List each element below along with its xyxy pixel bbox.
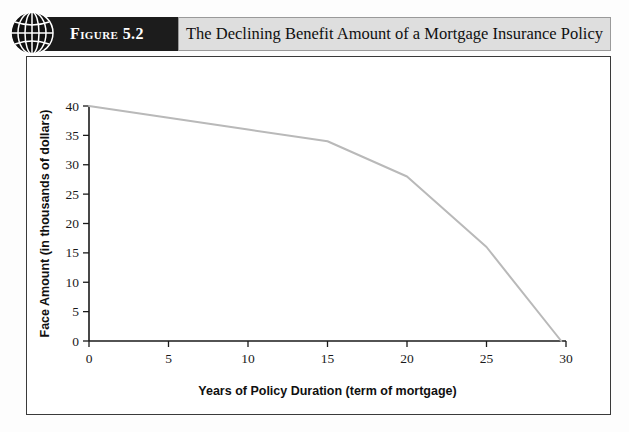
x-tick-label: 10 xyxy=(241,351,255,366)
line-chart: 0510152025303540051015202530Years of Pol… xyxy=(27,57,609,413)
y-tick-label: 0 xyxy=(72,334,79,349)
data-series-line xyxy=(89,106,561,341)
y-tick-label: 20 xyxy=(66,216,80,231)
x-axis-title: Years of Policy Duration (term of mortga… xyxy=(198,384,456,398)
y-tick-label: 30 xyxy=(66,157,80,172)
y-axis-title: Face Amount (in thousands of dollars) xyxy=(38,109,52,337)
y-tick-label: 15 xyxy=(66,245,80,260)
figure-title-tab: The Declining Benefit Amount of a Mortga… xyxy=(178,17,611,51)
page-title: The Declining Benefit Amount of a Mortga… xyxy=(179,18,610,50)
x-tick-label: 25 xyxy=(480,351,494,366)
x-tick-label: 15 xyxy=(321,351,335,366)
y-tick-label: 40 xyxy=(66,99,80,114)
figure-page: Figure 5.2 The Declining Benefit Amount … xyxy=(0,0,629,432)
y-tick-label: 35 xyxy=(66,128,80,143)
y-tick-label: 5 xyxy=(72,304,79,319)
figure-number-label: Figure 5.2 xyxy=(70,25,144,43)
y-tick-label: 25 xyxy=(66,187,80,202)
globe-icon xyxy=(8,8,56,58)
chart-frame: 0510152025303540051015202530Years of Pol… xyxy=(26,56,611,415)
y-tick-label: 10 xyxy=(66,275,80,290)
x-tick-label: 5 xyxy=(165,351,172,366)
x-tick-label: 0 xyxy=(86,351,93,366)
x-tick-label: 20 xyxy=(400,351,414,366)
figure-header: Figure 5.2 The Declining Benefit Amount … xyxy=(26,17,611,51)
x-tick-label: 30 xyxy=(559,351,573,366)
